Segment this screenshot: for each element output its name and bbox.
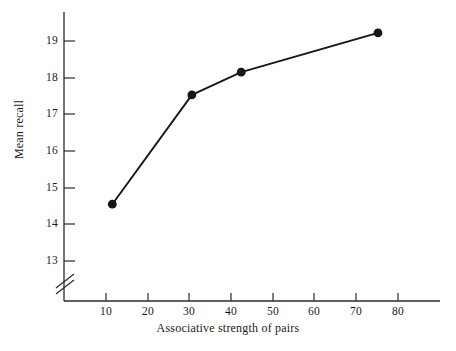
y-axis-break-icon [56,274,74,294]
plot-area [0,0,456,351]
x-tick-label-40: 40 [216,305,246,317]
y-axis-title: Mean recall [12,75,27,185]
y-tick-label-17: 17 [36,107,58,119]
y-tick-label-14: 14 [36,217,58,229]
x-tick-label-60: 60 [299,305,329,317]
data-point-marker [237,68,246,77]
data-point-marker [108,200,117,209]
y-tick-label-15: 15 [36,181,58,193]
x-tick-label-70: 70 [341,305,371,317]
series-line [112,33,378,204]
data-point-marker [188,91,197,100]
y-tick-label-19: 19 [36,34,58,46]
x-tick-label-20: 20 [133,305,163,317]
x-tick-label-50: 50 [258,305,288,317]
y-tick-label-13: 13 [36,254,58,266]
x-tick-label-80: 80 [383,305,413,317]
x-tick-label-30: 30 [174,305,204,317]
x-tick-marks [106,293,398,301]
y-tick-label-18: 18 [36,71,58,83]
y-tick-marks [64,41,75,261]
data-point-marker [374,29,383,38]
series-markers [108,29,383,209]
x-axis-title: Associative strength of pairs [0,321,456,336]
chart-figure: 19 18 17 16 15 14 13 10 20 30 40 50 60 7… [0,0,456,351]
x-tick-label-10: 10 [91,305,121,317]
y-tick-label-16: 16 [36,144,58,156]
